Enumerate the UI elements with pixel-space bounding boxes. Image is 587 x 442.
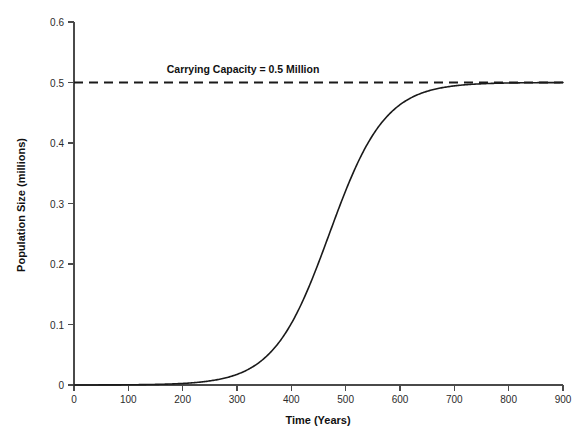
x-axis-tick-label: 100: [120, 394, 137, 405]
x-axis-tick-label: 200: [174, 394, 191, 405]
x-axis-tick-label: 700: [446, 394, 463, 405]
x-axis-tick-label: 900: [555, 394, 572, 405]
x-axis-tick-label: 500: [337, 394, 354, 405]
population-growth-curve: [74, 83, 563, 385]
y-axis-tick-label: 0.6: [28, 17, 64, 28]
y-axis-tick-label: 0.3: [28, 198, 64, 209]
x-axis-title: Time (Years): [285, 414, 350, 426]
x-axis-tick-label: 300: [229, 394, 246, 405]
y-axis-tick-label: 0.2: [28, 259, 64, 270]
x-axis-ticks: [74, 385, 563, 391]
y-axis-tick-label: 0: [28, 380, 64, 391]
y-axis-ticks: [68, 22, 74, 385]
x-axis-tick-label: 800: [500, 394, 517, 405]
x-axis-tick-label: 400: [283, 394, 300, 405]
x-axis-tick-label: 0: [71, 394, 77, 405]
y-axis-tick-label: 0.1: [28, 319, 64, 330]
carrying-capacity-annotation: Carrying Capacity = 0.5 Million: [167, 63, 320, 75]
y-axis-tick-label: 0.5: [28, 77, 64, 88]
y-axis-title: Population Size (millions): [15, 138, 27, 272]
chart-figure: 00.10.20.30.40.50.6 01002003004005006007…: [0, 0, 587, 442]
y-axis-tick-label: 0.4: [28, 138, 64, 149]
x-axis-tick-label: 600: [392, 394, 409, 405]
